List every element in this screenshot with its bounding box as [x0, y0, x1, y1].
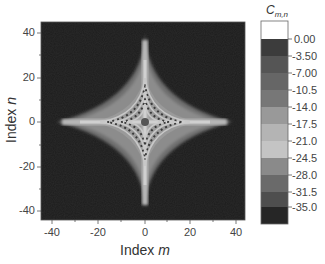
y-axis-ticks — [37, 33, 41, 211]
x-tick-label: -40 — [44, 226, 60, 238]
y-axis-title: Index n — [3, 97, 19, 143]
x-axis-title: Index m — [120, 242, 170, 258]
colorbar-label: -7.00 — [292, 67, 317, 79]
y-tick-label: 20 — [23, 71, 35, 83]
y-tick-label: -20 — [19, 160, 35, 172]
colorbar-label: -3.50 — [292, 50, 317, 62]
colorbar — [261, 21, 292, 224]
colorbar-label: -35.0 — [292, 201, 317, 213]
colorbar-title: Cm,n — [266, 3, 288, 19]
y-tick-label: -40 — [19, 204, 35, 216]
colorbar-label: -24.5 — [292, 152, 317, 164]
colorbar-label: -14.0 — [292, 101, 317, 113]
x-tick-label: 20 — [184, 226, 196, 238]
x-tick-label: 40 — [230, 226, 242, 238]
y-tick-label: 40 — [23, 26, 35, 38]
colorbar-label: -31.5 — [292, 186, 317, 198]
colorbar-label: -10.5 — [292, 84, 317, 96]
y-tick-label: 0 — [29, 115, 35, 127]
heatmap-plot — [0, 0, 325, 264]
x-tick-label: 0 — [142, 226, 148, 238]
x-axis-ticks — [52, 220, 236, 224]
colorbar-label: -28.0 — [292, 169, 317, 181]
colorbar-label: -21.0 — [292, 135, 317, 147]
colorbar-label: -17.5 — [292, 118, 317, 130]
colorbar-label: 0.00 — [294, 33, 315, 45]
figure: 40 20 0 -20 -40 -40 -20 0 20 40 Index m … — [0, 0, 325, 264]
x-tick-label: -20 — [90, 226, 106, 238]
